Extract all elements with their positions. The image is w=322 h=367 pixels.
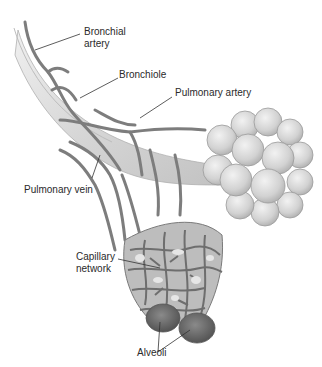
label-pulmonary-artery: Pulmonary artery xyxy=(175,87,251,99)
alveolar-sac-cluster xyxy=(203,108,313,226)
vessels xyxy=(25,22,205,250)
label-pulmonary-vein: Pulmonary vein xyxy=(24,184,93,196)
lung-anatomy-diagram: Bronchial artery Bronchiole Pulmonary ar… xyxy=(0,0,322,367)
label-bronchiole: Bronchiole xyxy=(119,69,166,81)
label-capillary-network: Capillary network xyxy=(76,251,115,275)
label-bronchial-artery: Bronchial artery xyxy=(84,26,126,50)
label-alveoli: Alveoli xyxy=(137,347,166,359)
bronchiole-tube xyxy=(14,28,225,185)
